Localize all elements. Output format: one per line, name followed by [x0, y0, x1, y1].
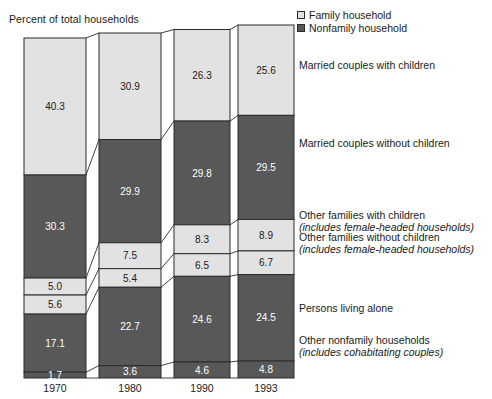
segment-value: 24.5 — [256, 312, 276, 323]
connector-line — [161, 225, 174, 243]
connector-line — [86, 366, 99, 373]
segment-value: 4.6 — [195, 365, 209, 376]
x-axis-tick-label: 1990 — [190, 382, 214, 394]
series-annotation: Other nonfamily households(includes coha… — [299, 335, 443, 358]
x-axis-tick-labels: 1970198019901993 — [43, 382, 278, 394]
segment-value: 3.6 — [123, 366, 137, 377]
series-annotation: Persons living alone — [299, 303, 393, 315]
segment-value: 24.6 — [192, 314, 212, 325]
bar-group — [24, 25, 294, 378]
series-annotation: Married couples with children — [299, 60, 435, 72]
segment-value: 29.5 — [256, 162, 276, 173]
connector-line — [230, 251, 238, 254]
segment-value: 1.7 — [48, 370, 62, 381]
segment-value: 5.6 — [48, 299, 62, 310]
segment-value: 6.7 — [259, 257, 273, 268]
connector-line — [161, 362, 174, 366]
segment-value: 26.3 — [192, 70, 212, 81]
x-axis-tick-label: 1993 — [254, 382, 278, 394]
connector-line — [86, 33, 99, 38]
segment-value: 22.7 — [120, 321, 140, 332]
series-annotation-title: Other nonfamily households — [299, 334, 430, 346]
segment-value: 7.5 — [123, 250, 137, 261]
connector-line — [161, 30, 174, 34]
connector-line — [86, 140, 99, 175]
connector-line — [230, 220, 238, 225]
segment-value: 25.6 — [256, 65, 276, 76]
series-annotation: Other families with children(includes fe… — [299, 210, 474, 233]
segment-value: 5.4 — [123, 273, 137, 284]
series-annotation-title: Other families without children — [299, 231, 440, 243]
segment-value: 17.1 — [45, 338, 65, 349]
segment-value: 30.3 — [45, 221, 65, 232]
series-annotation-note: (includes female-headed households) — [299, 244, 474, 256]
segment-value: 4.8 — [259, 364, 273, 375]
series-annotation-title: Other families with children — [299, 209, 425, 221]
series-annotation: Married couples without children — [299, 138, 450, 150]
series-annotation-note: (includes cohabitating couples) — [299, 347, 443, 359]
series-annotation: Other families without children(includes… — [299, 232, 474, 255]
segment-value: 8.9 — [259, 230, 273, 241]
segment-value: 5.0 — [48, 281, 62, 292]
segment-value: 29.9 — [120, 186, 140, 197]
series-annotation-title: Persons living alone — [299, 302, 393, 314]
connector-line — [230, 25, 238, 30]
connector-line — [161, 254, 174, 269]
connector-line — [230, 275, 238, 277]
segment-value: 40.3 — [45, 101, 65, 112]
series-annotation-title: Married couples with children — [299, 59, 435, 71]
series-annotation-title: Married couples without children — [299, 137, 450, 149]
connector-line — [161, 276, 174, 287]
connector-line — [230, 115, 238, 121]
x-axis-tick-label: 1970 — [43, 382, 67, 394]
stacked-bar-chart: Percent of total households Family house… — [0, 0, 492, 399]
segment-value: 29.8 — [192, 168, 212, 179]
connector-line — [230, 361, 238, 362]
segment-value: 30.9 — [120, 81, 140, 92]
connector-line — [161, 121, 174, 140]
segment-value: 6.5 — [195, 260, 209, 271]
x-axis-tick-label: 1980 — [118, 382, 142, 394]
segment-value: 8.3 — [195, 234, 209, 245]
